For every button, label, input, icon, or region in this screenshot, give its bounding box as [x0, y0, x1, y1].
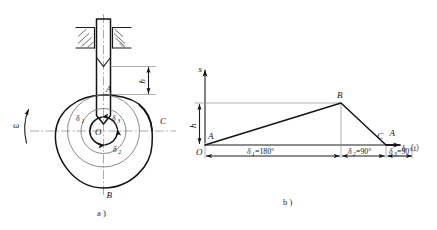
delta3-dimension-group: δ 3 =90°	[388, 145, 413, 158]
delta3-dim-value: =90°	[397, 147, 412, 156]
overlay-canvas: δ 3 =90°	[0, 0, 437, 230]
delta3-dim-symbol: δ	[389, 147, 393, 156]
figure-root: h ω A C B O δ	[0, 0, 437, 230]
